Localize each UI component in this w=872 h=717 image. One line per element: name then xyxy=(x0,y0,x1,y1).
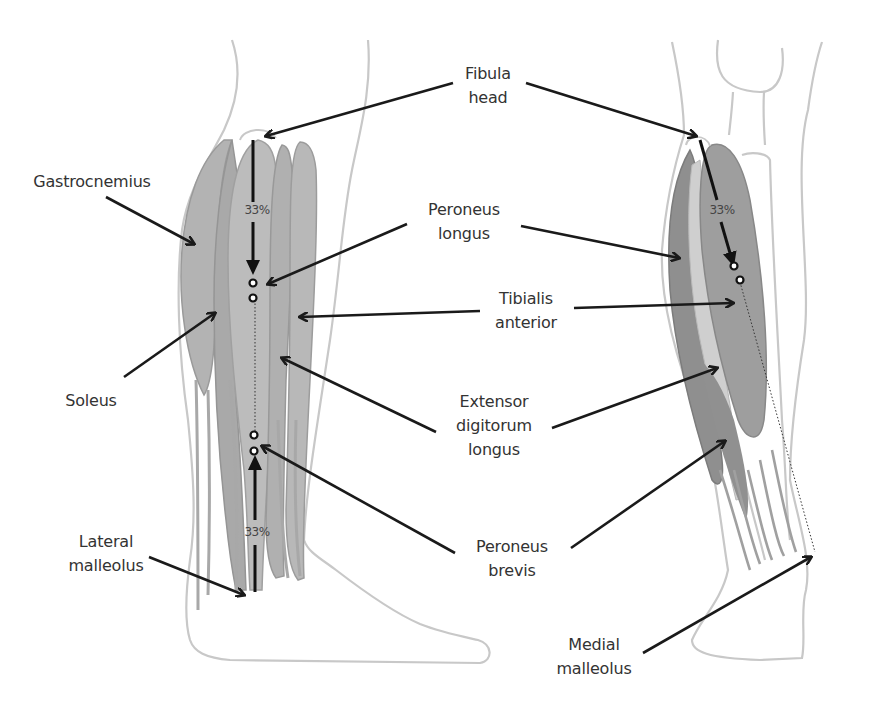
label-peroneus-brevis: Peroneus brevis xyxy=(476,535,548,583)
lateral-leg-view xyxy=(179,40,490,663)
arrow-fibula-head-left xyxy=(266,83,453,136)
label-peroneus-longus: Peroneus longus xyxy=(428,198,500,246)
measurement-33-left-top: 33% xyxy=(244,203,269,217)
label-gastrocnemius: Gastrocnemius xyxy=(33,170,151,194)
arrow-gastrocnemius xyxy=(106,197,194,244)
label-tibialis-anterior: Tibialis anterior xyxy=(495,287,557,335)
measurement-33-left-bottom: 33% xyxy=(244,525,269,539)
arrow-peroneus-brevis-right xyxy=(571,441,725,548)
anatomy-diagram: Fibula head Gastrocnemius Peroneus longu… xyxy=(0,0,872,717)
diagram-canvas xyxy=(0,0,872,717)
label-fibula-head: Fibula head xyxy=(465,62,511,110)
label-lateral-malleolus: Lateral malleolus xyxy=(68,530,143,578)
arrow-tibialis-anterior-left xyxy=(300,311,480,317)
label-medial-malleolus: Medial malleolus xyxy=(556,633,631,681)
arrow-peroneus-longus-right xyxy=(521,226,679,258)
label-extensor-digitorum-longus: Extensor digitorum longus xyxy=(456,390,532,462)
measurement-33-right-top: 33% xyxy=(709,203,734,217)
arrow-fibula-head-right xyxy=(526,83,696,136)
label-soleus: Soleus xyxy=(65,389,117,413)
